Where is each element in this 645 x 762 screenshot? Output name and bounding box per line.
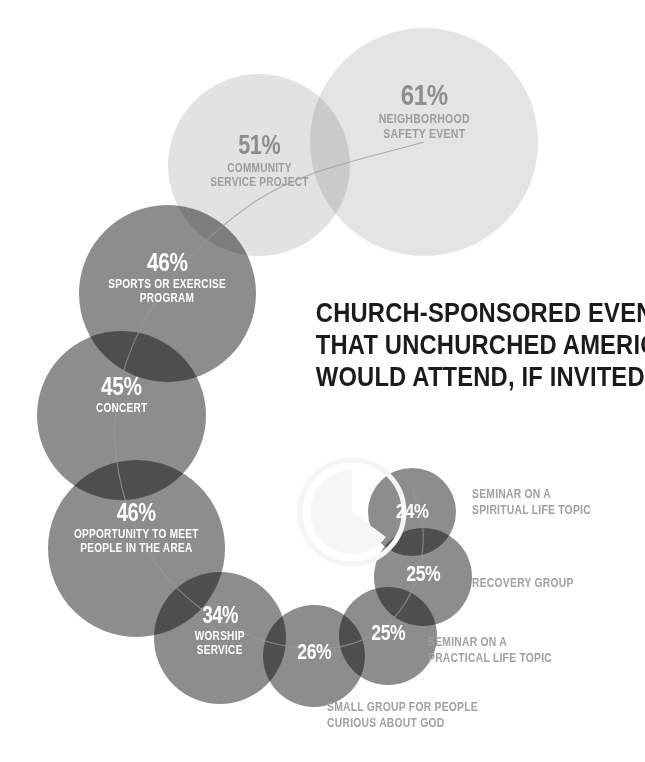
outside-label-small-group-curious-about-god: SMALL GROUP FOR PEOPLE CURIOUS ABOUT GOD (327, 699, 478, 731)
title-line-3: WOULD ATTEND, IF INVITED (316, 362, 606, 394)
title-line-1: CHURCH-SPONSORED EVENTS (316, 298, 606, 330)
outside-label-recovery-group: RECOVERY GROUP (472, 575, 574, 591)
outside-label-seminar-spiritual-life-topic: SEMINAR ON A SPIRITUAL LIFE TOPIC (472, 486, 591, 518)
infographic-canvas: 61% NEIGHBORHOOD SAFETY EVENT 51% COMMUN… (0, 0, 645, 762)
outside-label-seminar-practical-life-topic: SEMINAR ON A PRACTICAL LIFE TOPIC (428, 634, 552, 666)
title-line-2: THAT UNCHURCHED AMERICANS (316, 330, 606, 362)
bubble-seminar-spiritual-life-topic[interactable] (368, 468, 456, 556)
page-title: CHURCH-SPONSORED EVENTS THAT UNCHURCHED … (296, 298, 626, 394)
